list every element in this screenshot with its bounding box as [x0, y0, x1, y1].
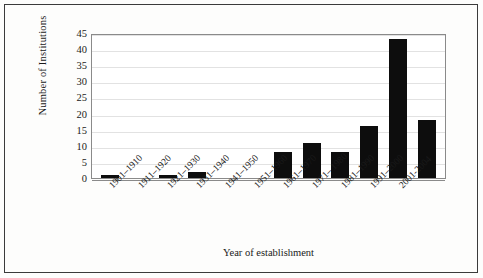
bar-chart-figure: Number of Institutions 05101520253035404… — [0, 0, 483, 278]
x-tick-slot: 1931–1940 — [182, 181, 211, 243]
y-tick-label: 40 — [77, 45, 88, 56]
y-tick-label: 45 — [77, 29, 88, 40]
x-tick-slot: 2001-2004 — [384, 181, 413, 243]
x-tick-slot: 1971– 1980 — [297, 181, 326, 243]
x-tick-slot: 1981–1990 — [326, 181, 355, 243]
x-axis-title: Year of establishment — [91, 247, 446, 258]
bar-slot — [96, 35, 125, 178]
y-tick-label: 20 — [77, 109, 88, 120]
y-tick-label: 35 — [77, 61, 88, 72]
y-tick-label: 10 — [77, 142, 88, 153]
x-tick-slot: 1901–1910 — [95, 181, 124, 243]
y-tick-label: 0 — [82, 174, 87, 185]
y-axis-tick-labels: 051015202530354045 — [57, 34, 87, 179]
x-tick-slot: 1951–1960 — [240, 181, 269, 243]
x-tick-slot: 1941–1950 — [211, 181, 240, 243]
bar-series — [92, 35, 445, 178]
x-axis-tick-labels: 1901–19101911–19201921–19301931–19401941… — [91, 181, 446, 243]
y-tick-label: 30 — [77, 77, 88, 88]
x-tick-slot: 1921–1930 — [153, 181, 182, 243]
y-axis-title: Number of Institutions — [37, 0, 48, 141]
y-tick-label: 15 — [77, 125, 88, 136]
x-tick-slot: 1991–2000 — [355, 181, 384, 243]
x-tick-slot: 1961–1970 — [269, 181, 298, 243]
x-tick-slot — [413, 181, 442, 243]
y-tick-label: 25 — [77, 93, 88, 104]
y-tick-label: 5 — [82, 158, 87, 169]
x-tick-slot: 1911–1920 — [124, 181, 153, 243]
